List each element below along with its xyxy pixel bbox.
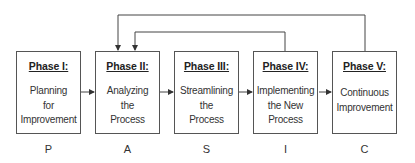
phase-2-letter: A <box>95 143 160 155</box>
phase-5-letter: C <box>332 143 397 155</box>
phase-1-letter: P <box>16 143 81 155</box>
phase-2-title: Phase II: <box>96 60 159 72</box>
phase-5-title: Phase V: <box>333 60 396 72</box>
phase-4-letter: I <box>253 143 318 155</box>
phase-3-body: Streamlining the Process <box>175 84 238 128</box>
phase-4-body: Implementing the New Process <box>254 84 317 128</box>
phase-5-body: Continuous Improvement <box>333 86 396 115</box>
phase-3-box: Phase III: Streamlining the Process <box>174 51 239 134</box>
phase-4-box: Phase IV: Implementing the New Process <box>253 51 318 134</box>
phase-5-box: Phase V: Continuous Improvement <box>332 51 397 134</box>
phase-1-body: Planning for Improvement <box>17 84 80 128</box>
phase-3-letter: S <box>174 143 239 155</box>
phase-4-title: Phase IV: <box>254 60 317 72</box>
phase-2-box: Phase II: Analyzing the Process <box>95 51 160 134</box>
phase-2-body: Analyzing the Process <box>96 84 159 128</box>
phase-1-title: Phase I: <box>17 60 80 72</box>
phase-1-box: Phase I: Planning for Improvement <box>16 51 81 134</box>
phase-3-title: Phase III: <box>175 60 238 72</box>
